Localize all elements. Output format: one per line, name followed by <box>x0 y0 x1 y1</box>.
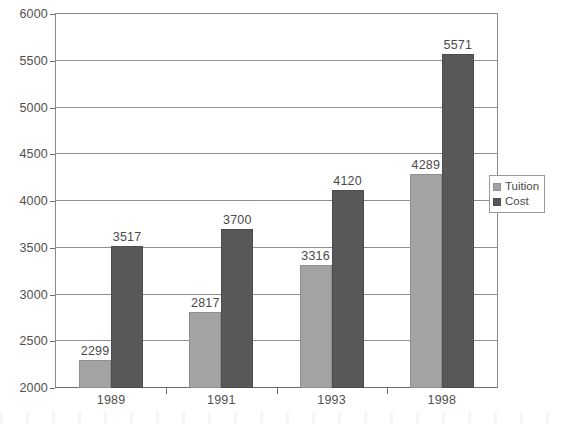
bar-tuition-1991 <box>189 312 221 388</box>
bar-chart: 200025003000350040004500500055006000 229… <box>0 0 562 425</box>
bar-cost-1989 <box>111 246 143 388</box>
y-axis-label: 2000 <box>4 382 48 395</box>
y-axis: 200025003000350040004500500055006000 <box>0 0 48 425</box>
bars-layer: 22993517281737003316412042895571 <box>56 14 497 388</box>
data-label: 4120 <box>322 175 374 188</box>
y-axis-label: 4500 <box>4 148 48 161</box>
y-axis-label: 4000 <box>4 195 48 208</box>
data-label: 3517 <box>101 231 153 244</box>
y-axis-label: 6000 <box>4 8 48 21</box>
x-axis-label-1993: 1993 <box>277 394 387 407</box>
bar-cost-1993 <box>332 190 364 388</box>
y-axis-label: 5000 <box>4 102 48 115</box>
y-axis-label: 3500 <box>4 242 48 255</box>
legend-swatch-tuition <box>493 183 501 191</box>
y-axis-label: 5500 <box>4 55 48 68</box>
y-axis-label: 2500 <box>4 335 48 348</box>
bar-tuition-1993 <box>300 265 332 388</box>
x-axis-label-1989: 1989 <box>56 394 166 407</box>
y-axis-label: 3000 <box>4 289 48 302</box>
legend-label: Tuition <box>505 181 539 193</box>
bar-tuition-1989 <box>79 360 111 388</box>
scan-artifact <box>0 412 562 424</box>
legend-item-tuition: Tuition <box>493 179 539 194</box>
y-axis-tick <box>50 388 55 389</box>
data-label: 3700 <box>211 214 263 227</box>
data-label: 5571 <box>432 39 484 52</box>
x-axis-label-1998: 1998 <box>387 394 497 407</box>
bar-cost-1998 <box>442 54 474 388</box>
bar-tuition-1998 <box>410 174 442 388</box>
bar-cost-1991 <box>221 229 253 388</box>
legend: TuitionCost <box>489 175 545 213</box>
legend-item-cost: Cost <box>493 194 539 209</box>
legend-swatch-cost <box>493 198 501 206</box>
x-axis-label-1991: 1991 <box>166 394 276 407</box>
legend-label: Cost <box>505 196 529 208</box>
